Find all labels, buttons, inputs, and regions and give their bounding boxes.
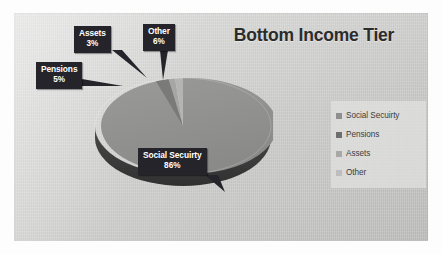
callout-social-security-name: Social Secuirty bbox=[143, 151, 202, 160]
callout-assets[interactable]: Assets 3% bbox=[74, 26, 111, 53]
callout-other-name: Other bbox=[148, 27, 170, 36]
legend-swatch-pensions bbox=[336, 132, 342, 138]
legend-label-pensions: Pensions bbox=[346, 130, 379, 139]
callout-pensions[interactable]: Pensions 5% bbox=[36, 62, 82, 89]
legend-item-assets[interactable]: Assets bbox=[336, 145, 422, 162]
legend-label-assets: Assets bbox=[346, 149, 370, 158]
callout-social-security-value: 86% bbox=[143, 161, 202, 170]
callout-other-value: 6% bbox=[148, 37, 170, 46]
callout-pensions-name: Pensions bbox=[41, 65, 77, 74]
legend-swatch-assets bbox=[336, 151, 342, 157]
callout-social-security[interactable]: Social Secuirty 86% bbox=[138, 148, 207, 175]
legend-label-social-security: Social Secuirty bbox=[346, 111, 399, 120]
legend-item-other[interactable]: Other bbox=[336, 164, 422, 181]
callout-assets-value: 3% bbox=[79, 39, 106, 48]
chart-title: Bottom Income Tier bbox=[214, 25, 414, 46]
legend-item-social-security[interactable]: Social Secuirty bbox=[336, 107, 422, 124]
legend-item-pensions[interactable]: Pensions bbox=[336, 126, 422, 143]
legend-label-other: Other bbox=[346, 168, 366, 177]
legend-swatch-social-security bbox=[336, 113, 342, 119]
chart-legend: Social Secuirty Pensions Assets Other bbox=[331, 101, 426, 188]
callout-pensions-value: 5% bbox=[41, 75, 77, 84]
legend-swatch-other bbox=[336, 170, 342, 176]
screenshot-root: Bottom Income Tier Social Secuirty Pensi… bbox=[0, 0, 442, 254]
callout-assets-name: Assets bbox=[79, 29, 106, 38]
callout-other[interactable]: Other 6% bbox=[143, 24, 175, 51]
